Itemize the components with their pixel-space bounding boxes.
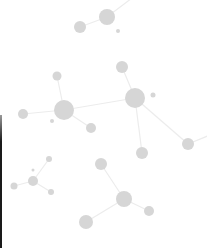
network-node [53,72,62,81]
network-node [116,61,128,73]
network-edge [64,98,135,110]
network-node [116,191,132,207]
network-node [32,169,35,172]
network-node [74,21,86,33]
network-node [46,156,52,162]
network-node [86,123,96,133]
network-node [144,206,154,216]
left-edge-bar [0,115,2,248]
network-node [48,189,54,195]
network-edges [14,0,207,222]
molecule-network-graphic [0,0,207,248]
network-edge [135,98,188,144]
network-node [125,88,145,108]
network-node [99,9,115,25]
network-node [151,93,156,98]
network-node [54,100,74,120]
network-node [18,109,28,119]
network-node [79,215,93,229]
network-node [95,158,107,170]
network-node [182,138,194,150]
network-nodes [11,9,195,229]
network-node [116,29,120,33]
network-node [50,119,54,123]
network-node [11,183,18,190]
network-node [28,176,38,186]
network-node [136,147,148,159]
